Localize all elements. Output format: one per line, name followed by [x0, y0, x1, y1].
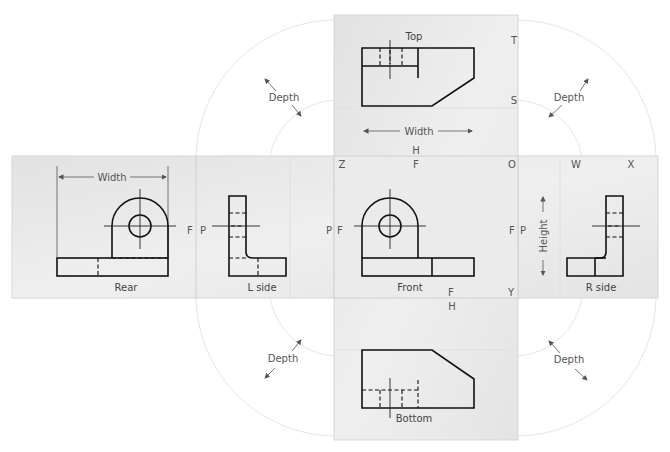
width-dimension-rear: Width — [97, 172, 126, 183]
plane-letter-X: X — [628, 159, 635, 170]
depth-label: Depth — [554, 92, 584, 103]
depth-dimension-bottom-right: Depth — [549, 341, 587, 380]
depth-label: Depth — [268, 353, 298, 364]
plane-letter-F-front-top: F — [413, 159, 419, 170]
plane-letter-Z: Z — [339, 159, 346, 170]
depth-dimension-top-right: Depth — [549, 79, 588, 117]
rear-view-label: Rear — [115, 282, 139, 293]
plane-letter-H-top: H — [412, 145, 420, 156]
plane-letter-F-rear: F — [187, 225, 193, 236]
plane-letter-W: W — [571, 159, 581, 170]
height-dimension: Height — [538, 219, 549, 252]
left-side-view-label: L side — [247, 282, 276, 293]
depth-dimension-top-left: Depth — [265, 79, 301, 116]
right-side-view-label: R side — [586, 282, 617, 293]
bottom-view-label: Bottom — [396, 413, 433, 424]
plane-letter-T: T — [510, 35, 518, 46]
plane-letter-O: O — [508, 159, 516, 170]
glass-box-panels — [12, 15, 658, 440]
plane-letter-H-bottom: H — [448, 301, 456, 312]
plane-letter-S: S — [511, 95, 517, 106]
width-dimension-top: Width — [404, 126, 433, 137]
plane-letter-P-lside-left: P — [200, 225, 206, 236]
front-view-label: Front — [397, 282, 422, 293]
plane-letter-F-front-left: F — [337, 225, 343, 236]
depth-label: Depth — [269, 92, 299, 103]
depth-dimension-bottom-left: Depth — [265, 340, 301, 378]
glass-box-diagram: Top Width T S H Front Z F O F F F Y H Wi… — [0, 0, 670, 452]
depth-label: Depth — [554, 354, 584, 365]
plane-letter-P-lside-right: P — [326, 225, 332, 236]
top-view-label: Top — [405, 31, 423, 42]
plane-letter-P-rside: P — [520, 225, 526, 236]
plane-letter-Y: Y — [507, 287, 515, 298]
plane-letter-F-front-bottom: F — [448, 287, 454, 298]
plane-letter-F-front-right: F — [509, 225, 515, 236]
